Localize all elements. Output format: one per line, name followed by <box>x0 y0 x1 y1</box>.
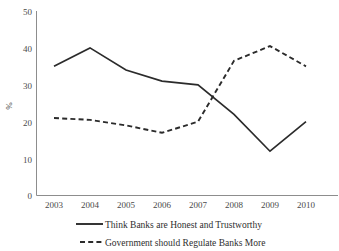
x-tick-label-2009: 2009 <box>261 200 280 210</box>
x-tick-label-2005: 2005 <box>117 200 136 210</box>
y-tick-label-20: 20 <box>23 118 33 128</box>
x-tick-label-2010: 2010 <box>297 200 316 210</box>
y-tick-label-30: 30 <box>23 81 33 91</box>
x-tick-label-2007: 2007 <box>189 200 208 210</box>
y-axis-title: % <box>4 102 14 110</box>
y-tick-label-50: 50 <box>23 7 33 17</box>
x-tick-label-2003: 2003 <box>45 200 64 210</box>
legend-label-think-banks-honest: Think Banks are Honest and Trustworthy <box>105 220 262 230</box>
y-tick-label-10: 10 <box>23 155 33 165</box>
x-tick-label-2006: 2006 <box>153 200 172 210</box>
x-tick-label-2008: 2008 <box>225 200 244 210</box>
chart-canvas: 50 40 30 20 10 0 % 2003 2004 2005 2006 2… <box>0 0 339 251</box>
y-tick-label-0: 0 <box>28 191 33 201</box>
series-line-think-banks-honest <box>54 48 306 151</box>
x-tick-label-2004: 2004 <box>81 200 100 210</box>
legend-label-government-regulate: Government should Regulate Banks More <box>105 238 265 248</box>
y-tick-label-40: 40 <box>23 44 33 54</box>
series-line-government-regulate <box>54 46 306 133</box>
line-chart: 50 40 30 20 10 0 % 2003 2004 2005 2006 2… <box>0 0 339 251</box>
